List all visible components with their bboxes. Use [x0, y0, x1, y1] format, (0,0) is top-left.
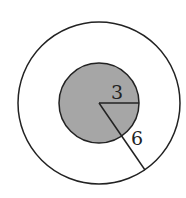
outer-radius-label: 6 — [131, 127, 143, 149]
inner-radius-label: 3 — [111, 81, 123, 103]
concentric-circles-diagram: 3 6 — [0, 0, 186, 198]
